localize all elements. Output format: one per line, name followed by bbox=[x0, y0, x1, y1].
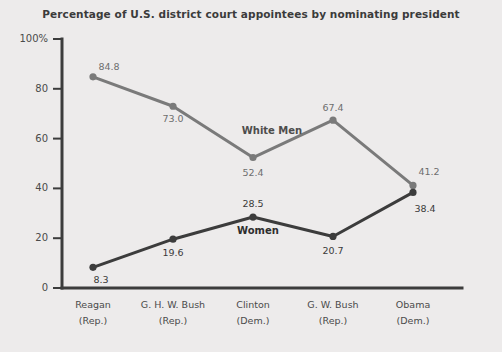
series-annotation-label: Women bbox=[237, 225, 279, 236]
data-point-label: 67.4 bbox=[322, 102, 343, 113]
data-point bbox=[329, 117, 336, 124]
x-axis-tick-label: Clinton bbox=[236, 299, 270, 310]
data-point-label: 8.3 bbox=[93, 274, 108, 285]
y-axis-tick-labels: 020406080100% bbox=[19, 33, 48, 293]
y-axis-tick-label: 100% bbox=[19, 33, 48, 44]
x-axis-tick-label: G. W. Bush bbox=[307, 299, 358, 310]
y-axis-tick-label: 0 bbox=[42, 282, 48, 293]
data-point-label: 84.8 bbox=[98, 61, 119, 72]
x-axis-tick-sublabel: (Rep.) bbox=[319, 315, 347, 326]
x-axis-tick-sublabel: (Dem.) bbox=[397, 315, 430, 326]
x-axis-tick-label: Obama bbox=[396, 299, 430, 310]
data-point bbox=[409, 189, 416, 196]
data-point bbox=[169, 103, 176, 110]
axis-group bbox=[53, 39, 462, 288]
data-point bbox=[89, 73, 96, 80]
data-point-label: 28.5 bbox=[242, 198, 263, 209]
data-point-label: 52.4 bbox=[242, 167, 263, 178]
data-point-label: 73.0 bbox=[162, 113, 183, 124]
data-point bbox=[89, 264, 96, 271]
y-axis-tick-label: 60 bbox=[35, 133, 48, 144]
y-axis-tick-label: 40 bbox=[35, 182, 48, 193]
x-axis-tick-sublabel: (Dem.) bbox=[237, 315, 270, 326]
chart-container: Percentage of U.S. district court appoin… bbox=[0, 0, 502, 352]
x-axis-tick-sublabel: (Rep.) bbox=[159, 315, 187, 326]
x-axis-tick-label: Reagan bbox=[75, 299, 111, 310]
data-point bbox=[249, 213, 256, 220]
x-axis-tick-label: G. H. W. Bush bbox=[141, 299, 205, 310]
data-point-label: 38.4 bbox=[414, 203, 435, 214]
data-point bbox=[329, 233, 336, 240]
x-axis-tick-sublabel: (Rep.) bbox=[79, 315, 107, 326]
series-annotation-label: White Men bbox=[242, 125, 302, 136]
data-point-label: 20.7 bbox=[322, 245, 343, 256]
line-chart-plot: 020406080100% Reagan(Rep.)G. H. W. Bush(… bbox=[0, 0, 502, 352]
y-axis-tick-label: 80 bbox=[35, 83, 48, 94]
y-axis-tick-label: 20 bbox=[35, 232, 48, 243]
data-point-label: 19.6 bbox=[162, 247, 183, 258]
data-point bbox=[249, 154, 256, 161]
data-point bbox=[409, 182, 416, 189]
data-point bbox=[169, 236, 176, 243]
x-axis-tick-labels: Reagan(Rep.)G. H. W. Bush(Rep.)Clinton(D… bbox=[75, 299, 430, 326]
data-point-label: 41.2 bbox=[418, 166, 439, 177]
